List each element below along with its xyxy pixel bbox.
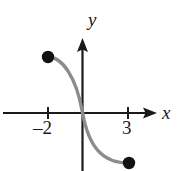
curve-right-endpoint-dot (123, 157, 135, 169)
curve-left-endpoint-dot (42, 51, 54, 63)
x-axis-label: x (162, 103, 170, 122)
x-tick-label-3: 3 (122, 118, 132, 137)
plotted-curve (48, 57, 128, 163)
x-tick-label-neg2: –2 (33, 118, 52, 137)
graph-figure: y x –2 3 (0, 0, 177, 171)
y-axis-label: y (88, 10, 96, 29)
